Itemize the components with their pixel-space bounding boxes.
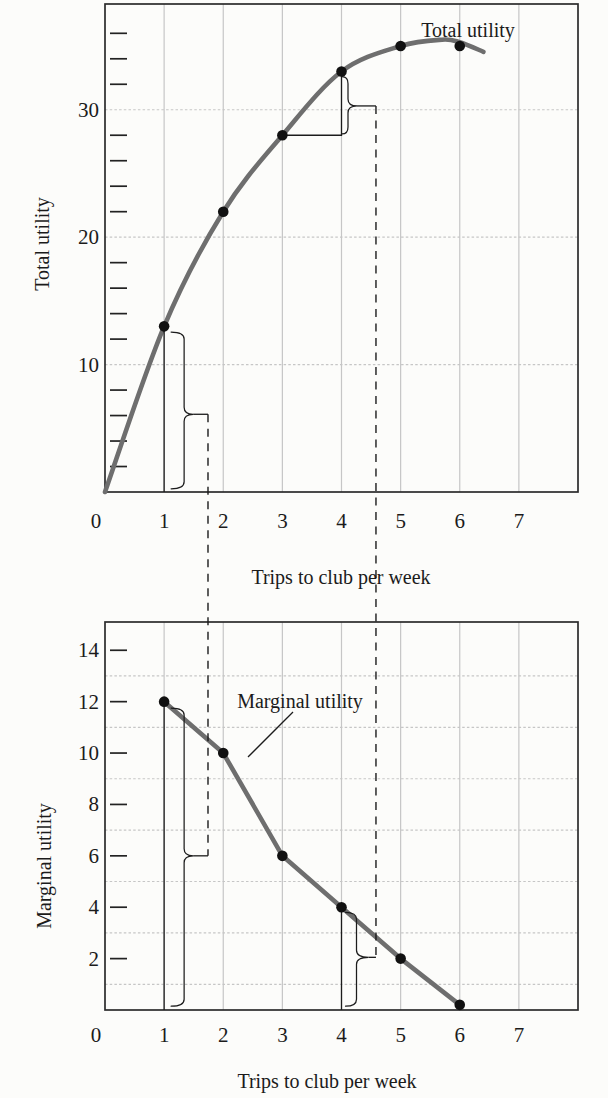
x-tick-label: 1 — [159, 509, 170, 533]
y-tick-label: 14 — [78, 638, 100, 662]
x-tick-label: 0 — [91, 1023, 102, 1047]
data-point-dot — [159, 696, 170, 707]
x-tick-label: 5 — [395, 1023, 406, 1047]
y-tick-label: 8 — [89, 792, 100, 816]
y-tick-label: 2 — [89, 947, 100, 971]
data-point-dot — [159, 321, 170, 332]
data-point-dot — [218, 748, 229, 759]
y-tick-label: 12 — [78, 690, 99, 714]
utility-figure: 10203001234567246810121401234567 Total u… — [0, 0, 608, 1098]
curly-brace — [342, 77, 357, 134]
marginal-utility-curve-label: Marginal utility — [237, 690, 363, 713]
bottom-y-axis-title: Marginal utility — [33, 803, 56, 929]
x-tick-label: 5 — [395, 509, 406, 533]
data-point-dot — [277, 851, 288, 862]
x-tick-label: 4 — [336, 509, 347, 533]
data-point-dot — [336, 902, 347, 913]
y-tick-label: 10 — [78, 353, 99, 377]
x-tick-label: 1 — [159, 1023, 170, 1047]
x-tick-label: 7 — [514, 509, 525, 533]
y-tick-label: 20 — [78, 225, 99, 249]
data-point-dot — [454, 1000, 465, 1011]
y-tick-label: 4 — [89, 895, 100, 919]
data-point-dot — [395, 953, 406, 964]
x-tick-label: 2 — [218, 509, 229, 533]
y-tick-label: 30 — [78, 98, 99, 122]
y-tick-label: 10 — [78, 741, 99, 765]
x-tick-label: 2 — [218, 1023, 229, 1047]
top-x-axis-title: Trips to club per week — [251, 566, 430, 589]
x-tick-label: 6 — [455, 1023, 466, 1047]
top-y-axis-title: Total utility — [31, 197, 54, 291]
y-tick-label: 6 — [89, 844, 100, 868]
total-utility-curve — [105, 40, 483, 492]
x-tick-label: 0 — [91, 509, 102, 533]
data-point-dot — [218, 206, 229, 217]
data-point-dot — [395, 41, 406, 52]
x-tick-label: 7 — [514, 1023, 525, 1047]
curly-brace — [171, 332, 193, 489]
utility-figure-canvas: 10203001234567246810121401234567 — [0, 0, 608, 1098]
bottom-x-axis-title: Trips to club per week — [237, 1070, 416, 1093]
x-tick-label: 6 — [455, 509, 466, 533]
curly-brace — [171, 708, 193, 1006]
x-tick-label: 3 — [277, 1023, 288, 1047]
data-point-dot — [336, 66, 347, 77]
data-point-dot — [277, 130, 288, 141]
x-tick-label: 3 — [277, 509, 288, 533]
data-point-dot — [454, 41, 465, 52]
total-utility-curve-label: Total utility — [421, 19, 515, 42]
marginal-label-pointer — [248, 712, 293, 757]
x-tick-label: 4 — [336, 1023, 347, 1047]
